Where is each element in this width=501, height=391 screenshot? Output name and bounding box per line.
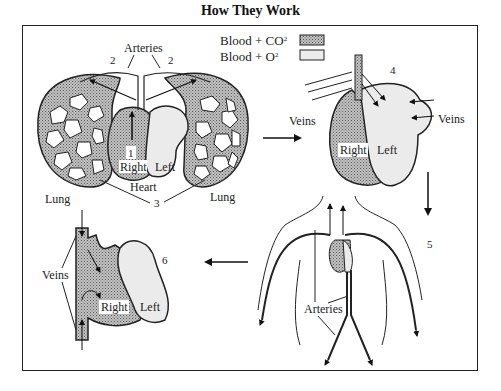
legend: Blood + CO2 Blood + O2 — [220, 33, 324, 64]
body-panel — [258, 196, 422, 365]
circulation-diagram: Blood + CO2 Blood + O2 — [0, 0, 501, 391]
left-label: Left — [155, 160, 176, 174]
arteries-label: Arteries — [304, 302, 343, 316]
lung-right-label: Lung — [210, 190, 235, 204]
step-3: 3 — [154, 197, 160, 209]
legend-co2-swatch — [300, 35, 324, 45]
legend-o2-swatch — [300, 50, 324, 60]
legend-co2-label: Blood + CO2 — [220, 33, 288, 48]
step-4: 4 — [390, 64, 396, 76]
left-label: Left — [140, 300, 161, 314]
legend-o2-label: Blood + O2 — [220, 49, 279, 64]
right-label: Right — [120, 160, 147, 174]
step-2-right: 2 — [168, 54, 174, 66]
step-2-left: 2 — [110, 54, 116, 66]
veins-label: Veins — [42, 268, 69, 282]
heart-body-return-panel: 6 Veins Right Left — [42, 210, 168, 350]
right-label: Right — [101, 300, 128, 314]
left-label: Left — [377, 143, 398, 157]
veins-left-label: Veins — [289, 114, 316, 128]
heart-label: Heart — [130, 180, 157, 194]
lungs-panel: Arteries 2 2 1 Right Left Heart Lung Lun… — [38, 41, 248, 209]
heart-return-panel: 4 Veins Veins Right Left — [289, 55, 465, 186]
right-label: Right — [340, 143, 367, 157]
step-1: 1 — [128, 147, 134, 159]
step-5: 5 — [427, 238, 433, 250]
veins-right-label: Veins — [438, 112, 465, 126]
lung-left-label: Lung — [45, 192, 70, 206]
arteries-label: Arteries — [124, 41, 163, 55]
step-6: 6 — [162, 254, 168, 266]
